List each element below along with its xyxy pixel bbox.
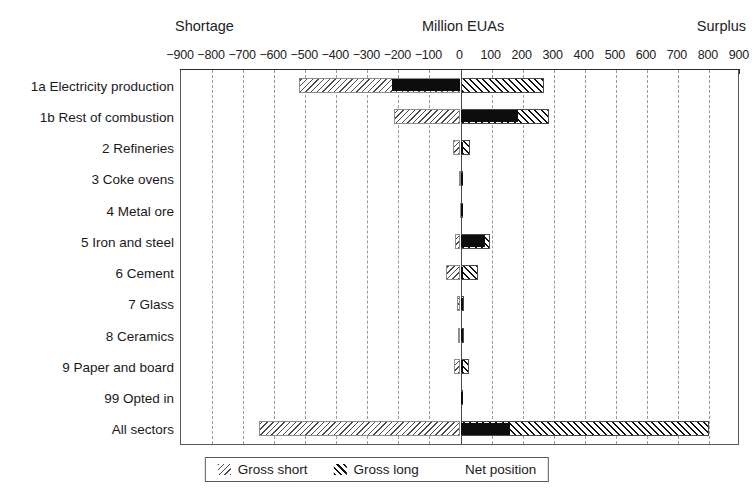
chart-legend: Gross shortGross longNet position [205, 457, 549, 482]
legend-item: Gross long [334, 462, 419, 477]
chart-row [181, 320, 738, 351]
bar-net-position [461, 392, 463, 404]
y-axis-category-label: 99 Opted in [104, 391, 174, 406]
y-axis-category-label: 5 Iron and steel [81, 234, 174, 249]
bar-net-position [461, 204, 463, 216]
y-axis-category-label: 4 Metal ore [106, 203, 174, 218]
bar-net-position [461, 298, 463, 310]
bar-net-position [461, 110, 518, 122]
bar-net-position [461, 423, 511, 435]
legend-label: Gross long [354, 462, 419, 477]
chart-row [181, 226, 738, 257]
x-tick-label: −100 [415, 48, 442, 62]
legend-swatch-gross-short-icon [218, 464, 231, 475]
bar-net-position [461, 329, 463, 341]
x-tick-label: 600 [636, 48, 656, 62]
chart-row [181, 383, 738, 414]
y-axis-category-label: 2 Refineries [102, 141, 174, 156]
bar-gross-long [461, 265, 478, 280]
y-axis-category-label: 9 Paper and board [62, 359, 174, 374]
x-tick-label: 200 [511, 48, 531, 62]
y-axis-category-label: 1b Rest of combustion [40, 109, 174, 124]
x-axis-tick-labels: −900−800−700−600−500−400−300−200−1000100… [0, 48, 754, 64]
x-tick-label: −400 [322, 48, 349, 62]
plot-area [180, 70, 739, 445]
chart-row [181, 414, 738, 445]
chart-container: Shortage Million EUAs Surplus −900−800−7… [0, 0, 754, 494]
bar-gross-short [454, 359, 461, 374]
bar-net-position [392, 79, 460, 91]
chart-row [181, 164, 738, 195]
legend-item: Net position [445, 462, 536, 477]
x-axis-tick [739, 69, 740, 74]
x-tick-label: −300 [353, 48, 380, 62]
x-tick-label: 300 [543, 48, 563, 62]
bar-gross-short [259, 421, 461, 436]
y-axis-category-label: 6 Cement [115, 266, 174, 281]
bar-gross-long [461, 78, 545, 93]
x-tick-label: 700 [667, 48, 687, 62]
legend-swatch-net-position-icon [445, 464, 458, 475]
chart-row [181, 258, 738, 289]
chart-row [181, 195, 738, 226]
bar-net-position [461, 235, 485, 247]
x-tick-label: −700 [228, 48, 255, 62]
y-axis-category-label: 3 Coke ovens [91, 172, 174, 187]
bar-net-position [461, 267, 463, 279]
x-tick-label: −500 [291, 48, 318, 62]
bar-gross-short [453, 140, 461, 155]
bar-gross-short [446, 265, 461, 280]
chart-row [181, 101, 738, 132]
legend-swatch-gross-long-icon [334, 464, 347, 475]
bar-gross-short [394, 109, 461, 124]
chart-row [181, 289, 738, 320]
y-axis-category-label: All sectors [112, 422, 174, 437]
y-axis-category-label: 8 Ceramics [106, 328, 174, 343]
y-axis-category-label: 1a Electricity production [31, 78, 174, 93]
x-tick-label: −600 [259, 48, 286, 62]
chart-row [181, 351, 738, 382]
x-tick-label: 800 [698, 48, 718, 62]
legend-item: Gross short [218, 462, 308, 477]
x-tick-label: −200 [384, 48, 411, 62]
chart-row [181, 133, 738, 164]
legend-label: Gross short [238, 462, 308, 477]
axis-label-units: Million EUAs [422, 18, 504, 36]
bar-net-position [461, 360, 463, 372]
axis-label-shortage: Shortage [175, 18, 234, 36]
chart-row [181, 70, 738, 101]
x-tick-label: 0 [456, 48, 463, 62]
bar-net-position [461, 142, 463, 154]
axis-label-surplus: Surplus [697, 18, 746, 36]
x-tick-label: 500 [605, 48, 625, 62]
bar-net-position [461, 173, 463, 185]
x-tick-label: 100 [480, 48, 500, 62]
y-axis-category-label: 7 Glass [128, 297, 174, 312]
legend-label: Net position [465, 462, 536, 477]
x-tick-label: −800 [197, 48, 224, 62]
y-axis-category-labels: 1a Electricity production1b Rest of comb… [0, 70, 174, 445]
x-tick-label: 400 [574, 48, 594, 62]
x-tick-label: −900 [166, 48, 193, 62]
x-tick-label: 900 [729, 48, 749, 62]
